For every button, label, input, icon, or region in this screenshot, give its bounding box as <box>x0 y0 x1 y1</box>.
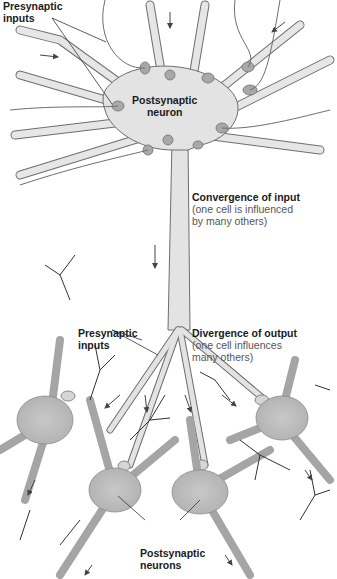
presynaptic-inputs-label-top: Presynaptic inputs <box>3 0 63 24</box>
neuron-diagram <box>0 0 337 579</box>
postsynaptic-neuron-label: Postsynaptic neuron <box>132 94 197 118</box>
postsynaptic-neurons-label: Postsynaptic neurons <box>140 547 205 571</box>
postsynaptic-neuron-top <box>10 0 330 330</box>
presynaptic-inputs-label-bottom: Presynaptic inputs <box>78 327 138 351</box>
convergence-label: Convergence of input (one cell is influe… <box>192 191 300 227</box>
divergence-label: Divergence of output (one cell influence… <box>192 327 297 363</box>
divergence-network <box>0 255 330 575</box>
